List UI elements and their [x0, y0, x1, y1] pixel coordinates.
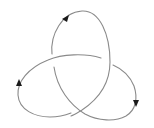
inner-diagonal-strand: [54, 65, 136, 120]
knot-diagram: Trefoil knot (oriented): [0, 0, 154, 128]
top-lobe-strand: [52, 11, 110, 116]
trefoil-knot-svg: [0, 0, 154, 128]
arrow-icon-top: [62, 15, 69, 22]
